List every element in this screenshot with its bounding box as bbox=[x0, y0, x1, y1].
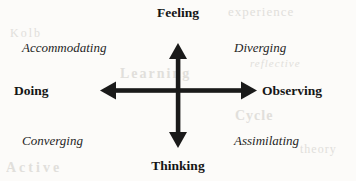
vertical-axis-shaft bbox=[176, 55, 181, 137]
learning-styles-quadrant-diagram: experience Kolb Learning Cycle Active re… bbox=[0, 0, 356, 181]
right-arrowhead bbox=[241, 82, 257, 100]
axis-label-feeling: Feeling bbox=[0, 6, 356, 20]
axis-label-observing: Observing bbox=[262, 84, 322, 98]
quadrant-label-assimilating: Assimilating bbox=[234, 134, 299, 147]
quadrant-label-accommodating: Accommodating bbox=[22, 41, 106, 54]
up-arrowhead bbox=[169, 43, 187, 59]
axis-label-doing: Doing bbox=[14, 84, 49, 98]
down-arrowhead bbox=[169, 132, 187, 148]
axis-label-thinking: Thinking bbox=[0, 159, 356, 173]
quadrant-label-diverging: Diverging bbox=[234, 41, 286, 54]
quadrant-label-converging: Converging bbox=[22, 134, 83, 147]
left-arrowhead bbox=[100, 82, 116, 100]
